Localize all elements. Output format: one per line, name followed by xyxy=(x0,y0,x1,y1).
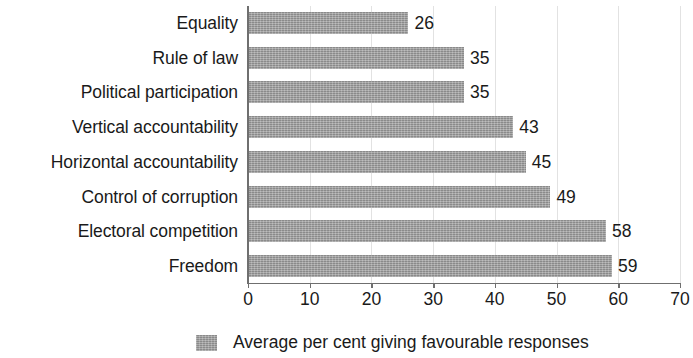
bar-row: Electoral competition58 xyxy=(0,214,693,249)
x-axis-tick xyxy=(310,283,311,288)
bar-chart: Equality26Rule of law35Political partici… xyxy=(0,0,693,358)
bar xyxy=(248,186,550,208)
bar-value-label: 35 xyxy=(470,47,489,69)
x-axis-tick-label: 20 xyxy=(351,289,391,310)
bar-row: Political participation35 xyxy=(0,75,693,110)
bar-value-label: 59 xyxy=(618,255,637,277)
category-label: Electoral competition xyxy=(78,214,238,249)
bar-row: Equality26 xyxy=(0,6,693,41)
bar-row: Vertical accountability43 xyxy=(0,110,693,145)
bar-value-label: 49 xyxy=(556,186,575,208)
legend-label: Average per cent giving favourable respo… xyxy=(233,332,589,353)
x-axis-tick-label: 70 xyxy=(660,289,693,310)
bar-row: Control of corruption49 xyxy=(0,180,693,215)
category-label: Rule of law xyxy=(153,41,238,76)
bar-value-label: 26 xyxy=(414,12,433,34)
bar-row: Rule of law35 xyxy=(0,41,693,76)
bar-value-label: 43 xyxy=(519,116,538,138)
bar xyxy=(248,255,612,277)
legend-swatch xyxy=(196,335,217,351)
bar xyxy=(248,81,464,103)
x-axis-tick-label: 60 xyxy=(598,289,638,310)
category-label: Political participation xyxy=(81,75,238,110)
x-axis-tick-label: 50 xyxy=(537,289,577,310)
x-axis-tick xyxy=(248,283,249,288)
bar xyxy=(248,12,408,34)
category-label: Equality xyxy=(177,6,238,41)
x-axis-tick-label: 10 xyxy=(290,289,330,310)
x-axis-tick xyxy=(433,283,434,288)
y-axis-line xyxy=(247,6,249,284)
x-axis-tick xyxy=(495,283,496,288)
category-label: Vertical accountability xyxy=(72,110,238,145)
x-axis-line xyxy=(247,283,681,284)
bar-value-label: 45 xyxy=(532,151,551,173)
x-axis-tick xyxy=(618,283,619,288)
bar-row: Horizontal accountability45 xyxy=(0,145,693,180)
category-label: Horizontal accountability xyxy=(51,145,238,180)
x-axis-tick-label: 40 xyxy=(475,289,515,310)
bar xyxy=(248,47,464,69)
x-axis-tick-label: 0 xyxy=(228,289,268,310)
bar xyxy=(248,220,606,242)
bar xyxy=(248,151,526,173)
category-label: Freedom xyxy=(169,249,238,284)
x-axis-tick xyxy=(680,283,681,288)
bar-value-label: 35 xyxy=(470,81,489,103)
x-axis-tick-label: 30 xyxy=(413,289,453,310)
x-axis-tick xyxy=(557,283,558,288)
bar xyxy=(248,116,513,138)
legend: Average per cent giving favourable respo… xyxy=(196,332,589,353)
bar-row: Freedom59 xyxy=(0,249,693,284)
category-label: Control of corruption xyxy=(82,180,238,215)
x-axis-tick xyxy=(371,283,372,288)
bar-value-label: 58 xyxy=(612,220,631,242)
